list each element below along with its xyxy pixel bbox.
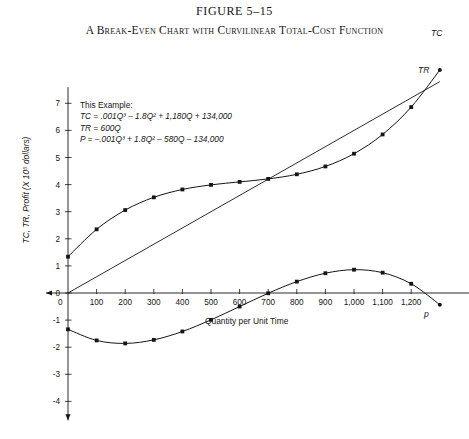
x-tick-label: 200	[118, 298, 132, 307]
x-tick-label: 900	[319, 298, 333, 307]
chart-plot-area	[0, 0, 469, 439]
tc-curve	[68, 70, 440, 257]
tc-data-marker	[295, 172, 299, 176]
profit-endpoint-marker	[438, 303, 442, 307]
profit-data-marker	[381, 271, 385, 275]
y-tick-label: 7	[42, 99, 60, 108]
profit-data-marker	[123, 342, 127, 346]
x-tick-label: 300	[147, 298, 161, 307]
y-tick-label: 6	[42, 126, 60, 135]
tc-endpoint-marker	[438, 68, 442, 72]
y-tick-label: -2	[42, 343, 60, 352]
y-tick-label: -4	[42, 397, 60, 406]
tc-data-marker	[95, 227, 99, 231]
x-tick-label: 1,000	[344, 298, 365, 307]
x-tick-label: 500	[204, 298, 218, 307]
x-tick-label: 100	[90, 298, 104, 307]
tr-line	[68, 82, 440, 293]
y-tick-label: 1	[42, 261, 60, 270]
y-tick-label: 2	[42, 234, 60, 243]
y-axis-arrow	[65, 414, 70, 420]
tc-data-marker	[152, 195, 156, 199]
x-tick-label: 400	[176, 298, 190, 307]
y-tick-label: -1	[42, 316, 60, 325]
tc-data-marker	[324, 165, 328, 169]
tc-data-marker	[381, 133, 385, 137]
y-tick-label: -3	[42, 370, 60, 379]
tc-data-marker	[66, 255, 70, 259]
y-tick-label: 0	[42, 289, 60, 298]
tc-data-marker	[409, 105, 413, 109]
origin-label: 0	[58, 298, 63, 307]
profit-data-marker	[409, 282, 413, 286]
tc-data-marker	[238, 180, 242, 184]
profit-data-marker	[181, 330, 185, 334]
y-tick-label: 3	[42, 207, 60, 216]
tc-data-marker	[352, 152, 356, 156]
x-tick-label: 600	[233, 298, 247, 307]
profit-data-marker	[209, 318, 213, 322]
x-tick-label: 1,200	[401, 298, 422, 307]
x-tick-label: 1,100	[372, 298, 393, 307]
profit-data-marker	[266, 291, 270, 295]
y-tick-label: 5	[42, 153, 60, 162]
x-tick-label: 700	[261, 298, 275, 307]
profit-data-marker	[152, 338, 156, 342]
profit-data-marker	[66, 327, 70, 331]
y-tick-label: 4	[42, 180, 60, 189]
profit-data-marker	[324, 271, 328, 275]
profit-data-marker	[95, 339, 99, 343]
figure-root: FIGURE 5–15 A Break-Even Chart with Curv…	[0, 0, 469, 439]
profit-data-marker	[295, 280, 299, 284]
tc-data-marker	[181, 188, 185, 192]
tc-data-marker	[209, 183, 213, 187]
profit-data-marker	[352, 268, 356, 272]
tc-data-marker	[123, 208, 127, 212]
x-tick-label: 800	[290, 298, 304, 307]
